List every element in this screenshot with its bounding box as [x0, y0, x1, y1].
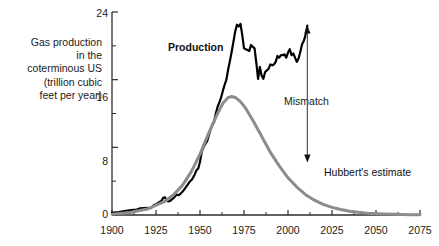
mismatch-arrowhead-down [304, 155, 310, 163]
chart-canvas [0, 0, 439, 246]
series-line-hubbert-estimate [112, 97, 420, 215]
ticks-group [112, 12, 420, 215]
series-group [112, 24, 420, 215]
gas-production-chart: Gas production in the coterminous US (tr… [0, 0, 439, 246]
annotations-group [304, 26, 310, 163]
mismatch-arrowhead-up [304, 26, 310, 34]
axes-group [112, 12, 420, 215]
series-line-production [112, 24, 307, 213]
